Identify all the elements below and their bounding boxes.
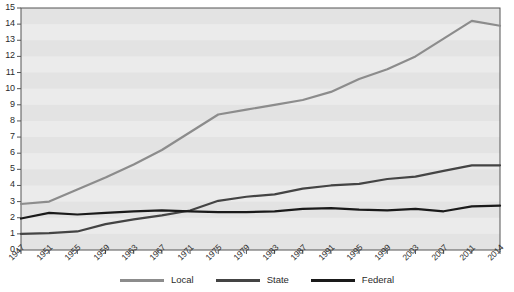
y-tick-label: 4 (1, 180, 15, 189)
grid-band (21, 8, 500, 24)
y-tick-label: 11 (1, 68, 15, 77)
y-tick-label: 13 (1, 35, 15, 44)
chart-legend: Local State Federal (0, 272, 514, 288)
legend-item-state[interactable]: State (216, 275, 289, 285)
y-tick-label: 3 (1, 197, 15, 206)
y-tick-label: 9 (1, 100, 15, 109)
legend-swatch-local (120, 279, 164, 282)
y-tick-label: 14 (1, 19, 15, 28)
y-tick-label: 12 (1, 51, 15, 60)
grid-band (21, 73, 500, 89)
y-tick-label: 15 (1, 3, 15, 12)
legend-swatch-state (216, 279, 260, 282)
legend-item-federal[interactable]: Federal (311, 275, 394, 285)
y-tick-label: 5 (1, 164, 15, 173)
legend-label-local: Local (171, 275, 194, 285)
y-axis-ticks (17, 8, 21, 250)
legend-swatch-federal (311, 279, 355, 282)
y-tick-label: 8 (1, 116, 15, 125)
y-tick-label: 6 (1, 148, 15, 157)
grid-band (21, 137, 500, 153)
legend-label-federal: Federal (362, 275, 394, 285)
y-tick-label: 7 (1, 132, 15, 141)
line-chart: 0123456789101112131415 19471951195519591… (0, 0, 514, 292)
grid-band (21, 234, 500, 250)
y-tick-label: 10 (1, 84, 15, 93)
legend-item-local[interactable]: Local (120, 275, 194, 285)
y-tick-label: 2 (1, 213, 15, 222)
y-tick-label: 1 (1, 229, 15, 238)
legend-label-state: State (267, 275, 289, 285)
